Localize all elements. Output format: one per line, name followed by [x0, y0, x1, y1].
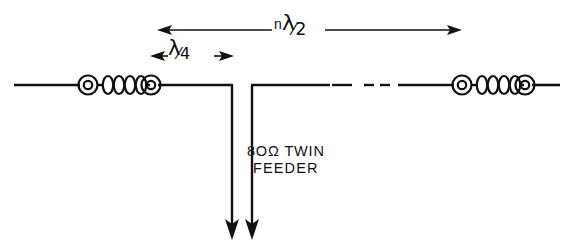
left-insulator-disc-2 — [114, 76, 124, 94]
left-insulator-disc-3 — [125, 76, 135, 94]
right-insulator-disc-3 — [499, 76, 509, 94]
right-insulator-ring-outer-left — [453, 76, 472, 95]
quarter-lambda-fraction: ⁄4 — [177, 44, 190, 63]
left-insulator-ring-outer-left — [79, 76, 98, 95]
right-insulator — [453, 76, 535, 95]
antenna-diagram: nλ⁄2 λ⁄4 8OΩ TWIN FEEDER — [0, 0, 569, 246]
feeder-caption-line-1: 8OΩ TWIN — [247, 143, 325, 159]
left-insulator — [79, 76, 161, 95]
label-n-half-lambda: nλ⁄2 — [274, 10, 310, 35]
label-quarter-lambda: λ⁄4 — [168, 36, 193, 60]
right-insulator-disc-1 — [477, 76, 487, 94]
label-feeder-caption: 8OΩ TWIN FEEDER — [247, 143, 325, 177]
feeder-caption-line-2: FEEDER — [247, 160, 325, 177]
left-insulator-ring-inner-left — [84, 81, 92, 89]
right-insulator-disc-2 — [488, 76, 498, 94]
n-half-lambda-fraction: ⁄2 — [292, 19, 306, 39]
right-insulator-ring-inner-left — [458, 81, 466, 89]
left-insulator-disc-1 — [103, 76, 113, 94]
diagram-canvas — [0, 0, 569, 246]
n-half-lambda-prefix: n — [274, 16, 282, 32]
